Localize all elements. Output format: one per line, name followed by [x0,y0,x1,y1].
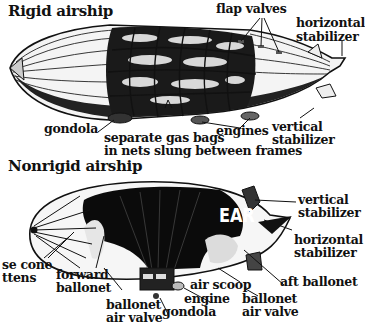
rigid-airship-title: Rigid airship [8,2,113,20]
label-horizontal-stabilizer-nonrigid-2: stabilizer [294,246,357,260]
nonrigid-airship-title: Nonrigid airship [8,157,142,175]
label-vertical-stabilizer-nonrigid-2: stabilizer [298,206,361,220]
label-horizontal-stabilizer-rigid-1: horizontal [296,16,365,30]
label-nose-cone-battens-2: ttens [2,271,36,285]
label-flap-valves: flap valves [216,2,286,16]
label-gondola-nonrigid: gondola [162,305,216,319]
label-horizontal-stabilizer-rigid-2: stabilizer [296,30,359,44]
label-engines: engines [216,124,269,138]
label-vertical-stabilizer-rigid-2: stabilizer [272,133,335,147]
hull-lettering: EAR [219,204,254,226]
label-ballonet-air-valve-right-2: air valve [242,305,298,319]
label-ballonet-air-valve-left-2: air valve [106,311,162,325]
label-air-scoop: air scoop [190,278,251,292]
label-gondola-rigid: gondola [44,122,98,136]
label-aft-ballonet: aft ballonet [280,275,358,289]
label-forward-ballonet-2: ballonet [56,281,111,295]
